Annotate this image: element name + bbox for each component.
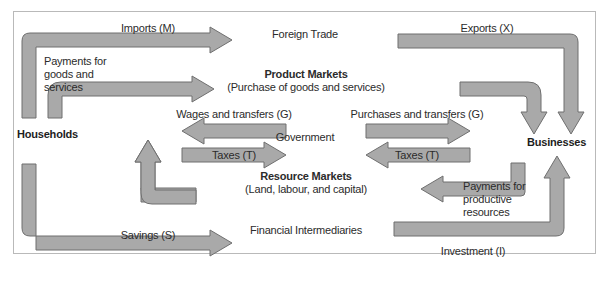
label-taxes-right: Taxes (T): [395, 149, 439, 162]
label-foreign-trade: Foreign Trade: [272, 28, 338, 41]
diagram-canvas: .arw{ fill:#a9a9a9; stroke:#6f6f6f; stro…: [0, 0, 613, 281]
label-taxes-left: Taxes (T): [212, 149, 256, 162]
node-households: Households: [17, 128, 78, 140]
label-payments-goods-services: Payments for goods and services: [44, 55, 116, 94]
label-investment: Investment (I): [441, 245, 505, 258]
arrow-wages-transfers: [182, 118, 286, 144]
label-financial-intermediaries: Financial Intermediaries: [250, 224, 362, 237]
label-wages-transfers: Wages and transfers (G): [176, 108, 291, 121]
arrow-savings: [22, 164, 232, 256]
label-resource-markets-title: Resource Markets: [260, 170, 352, 183]
label-exports: Exports (X): [461, 22, 514, 35]
label-product-markets-title: Product Markets: [264, 68, 347, 81]
node-businesses: Businesses: [527, 136, 586, 148]
label-resource-markets-sub: (Land, labour, and capital): [245, 183, 367, 196]
label-payments-productive-resources: Payments for productive resources: [463, 180, 535, 219]
label-purchases-transfers: Purchases and transfers (G): [351, 108, 484, 121]
label-imports: Imports (M): [121, 22, 175, 35]
label-savings: Savings (S): [121, 229, 176, 242]
label-product-markets-sub: (Purchase of goods and services): [227, 81, 384, 94]
arrow-purchases-transfers: [366, 118, 470, 144]
label-government: Government: [276, 131, 335, 144]
